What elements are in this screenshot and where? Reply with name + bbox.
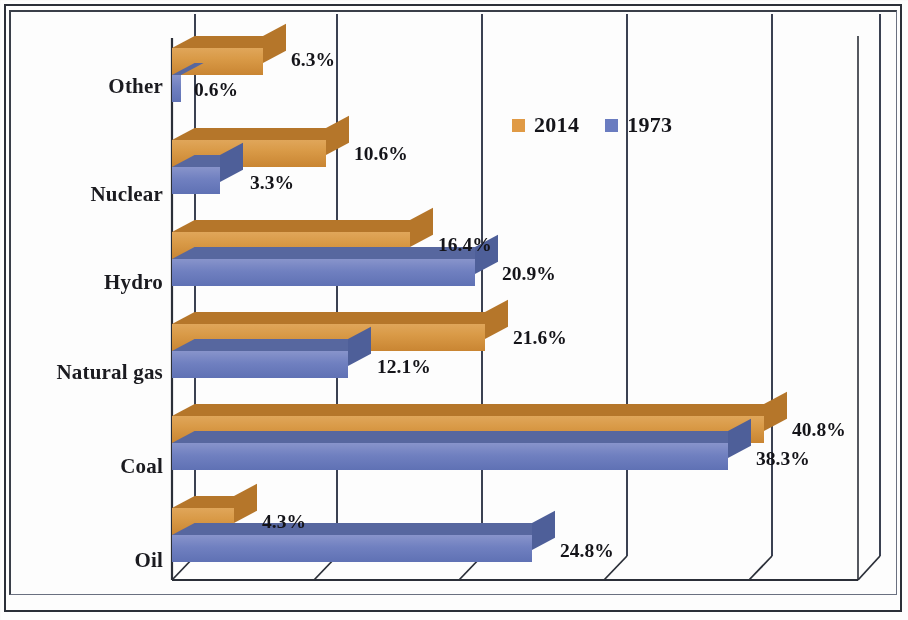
square-swatch-icon — [605, 119, 618, 132]
chart-inner-border — [9, 10, 897, 595]
square-swatch-icon — [512, 119, 525, 132]
legend-item-1973: 1973 — [605, 112, 672, 138]
bar-chart-figure: Other Nuclear Hydro Natural gas Coal Oil — [0, 0, 908, 620]
chart-legend: 2014 1973 — [512, 112, 672, 138]
legend-item-2014: 2014 — [512, 112, 579, 138]
legend-label-2014: 2014 — [534, 112, 579, 138]
legend-label-1973: 1973 — [627, 112, 672, 138]
